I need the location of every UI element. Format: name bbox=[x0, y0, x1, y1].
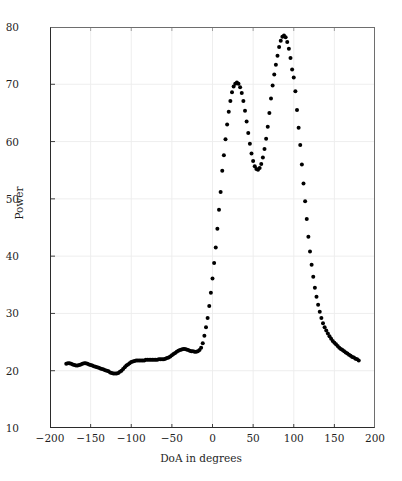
data-point bbox=[259, 162, 263, 166]
data-point bbox=[199, 346, 203, 350]
data-point bbox=[228, 99, 232, 103]
data-point bbox=[300, 162, 304, 166]
data-point bbox=[237, 82, 241, 86]
data-point bbox=[305, 217, 309, 221]
data-point bbox=[315, 295, 319, 299]
data-point bbox=[298, 143, 302, 147]
data-point bbox=[220, 169, 224, 173]
y-tick-label: 30 bbox=[6, 308, 19, 319]
data-point bbox=[313, 286, 317, 290]
data-point bbox=[225, 122, 229, 126]
data-point bbox=[279, 39, 283, 43]
data-point bbox=[266, 125, 270, 129]
data-point bbox=[321, 321, 325, 325]
x-tick-label: 200 bbox=[365, 433, 385, 444]
data-point bbox=[274, 63, 278, 67]
data-point bbox=[306, 235, 310, 239]
data-point bbox=[248, 142, 252, 146]
plot-area bbox=[50, 27, 375, 428]
chart-canvas bbox=[50, 27, 375, 428]
data-point bbox=[241, 99, 245, 103]
data-point bbox=[250, 152, 254, 156]
data-point bbox=[289, 56, 293, 60]
x-tick-label: 0 bbox=[209, 433, 216, 444]
y-tick-label: 70 bbox=[6, 79, 19, 90]
data-point bbox=[230, 90, 234, 94]
x-tick-label: 100 bbox=[284, 433, 304, 444]
data-point bbox=[292, 75, 296, 79]
x-tick-label: −150 bbox=[76, 433, 105, 444]
data-point bbox=[318, 310, 322, 314]
y-tick-label: 10 bbox=[6, 423, 19, 434]
data-point bbox=[285, 40, 289, 44]
data-point bbox=[271, 83, 275, 87]
data-point bbox=[215, 227, 219, 231]
data-point bbox=[240, 91, 244, 95]
data-point bbox=[243, 109, 247, 113]
y-axis-title: Power bbox=[13, 173, 25, 233]
data-point bbox=[214, 246, 218, 250]
data-point bbox=[251, 159, 255, 163]
x-tick-label: −200 bbox=[36, 433, 65, 444]
data-point bbox=[287, 47, 291, 51]
y-tick-label: 20 bbox=[6, 366, 19, 377]
data-point bbox=[201, 341, 205, 345]
data-point bbox=[290, 67, 294, 71]
data-point bbox=[357, 358, 361, 362]
data-point bbox=[227, 110, 231, 114]
data-point bbox=[245, 120, 249, 124]
data-point bbox=[263, 147, 267, 151]
data-point bbox=[222, 153, 226, 157]
x-axis-title: DoA in degrees bbox=[0, 452, 402, 464]
data-point bbox=[261, 156, 265, 160]
data-point bbox=[316, 303, 320, 307]
y-tick-label: 80 bbox=[6, 22, 19, 33]
data-point bbox=[284, 35, 288, 39]
data-point bbox=[246, 131, 250, 135]
data-point bbox=[277, 45, 281, 49]
data-point bbox=[264, 137, 268, 141]
data-point bbox=[224, 137, 228, 141]
data-point bbox=[204, 325, 208, 329]
doa-power-scatter-chart: 1020304050607080 −200−150−100−5005010015… bbox=[0, 0, 402, 481]
data-point bbox=[323, 325, 327, 329]
data-point bbox=[238, 85, 242, 89]
y-tick-label: 60 bbox=[6, 137, 19, 148]
data-point bbox=[319, 316, 323, 320]
data-point bbox=[303, 199, 307, 203]
data-point bbox=[302, 181, 306, 185]
y-tick-label: 40 bbox=[6, 251, 19, 262]
data-point bbox=[212, 261, 216, 265]
data-point bbox=[295, 108, 299, 112]
data-point bbox=[276, 54, 280, 58]
x-tick-label: 150 bbox=[324, 433, 344, 444]
data-point bbox=[293, 89, 297, 93]
x-tick-label: −50 bbox=[161, 433, 183, 444]
data-point bbox=[219, 190, 223, 194]
data-point bbox=[258, 166, 262, 170]
data-point bbox=[217, 208, 221, 212]
data-point bbox=[311, 275, 315, 279]
data-point bbox=[206, 316, 210, 320]
data-point bbox=[207, 304, 211, 308]
x-tick-label: −100 bbox=[117, 433, 146, 444]
data-point bbox=[267, 111, 271, 115]
data-point bbox=[272, 73, 276, 77]
data-point bbox=[202, 334, 206, 338]
data-point bbox=[269, 97, 273, 101]
data-point bbox=[209, 291, 213, 295]
data-point bbox=[297, 126, 301, 130]
x-tick-label: 50 bbox=[246, 433, 259, 444]
data-point bbox=[211, 276, 215, 280]
data-point bbox=[308, 250, 312, 254]
data-point bbox=[310, 263, 314, 267]
